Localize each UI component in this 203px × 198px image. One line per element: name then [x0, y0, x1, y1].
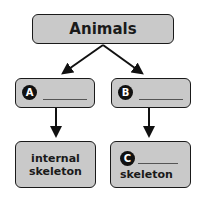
marker-b: B: [118, 85, 133, 100]
blank-b-answer[interactable]: [139, 99, 183, 100]
blank-c-answer[interactable]: [138, 163, 178, 164]
marker-c: C: [120, 151, 135, 166]
node-internal-skeleton: internal skeleton: [15, 141, 96, 188]
root-label: Animals: [69, 20, 136, 38]
label-line-1: internal: [29, 152, 82, 165]
skeleton-label: skeleton: [120, 168, 173, 181]
label-line-2: skeleton: [29, 165, 82, 178]
root-node-animals: Animals: [32, 14, 174, 44]
node-a: A: [15, 78, 95, 108]
marker-a: A: [22, 85, 37, 100]
node-b: B: [111, 78, 191, 108]
blank-a-answer[interactable]: [43, 99, 87, 100]
node-c-skeleton: C skeleton: [110, 141, 191, 188]
